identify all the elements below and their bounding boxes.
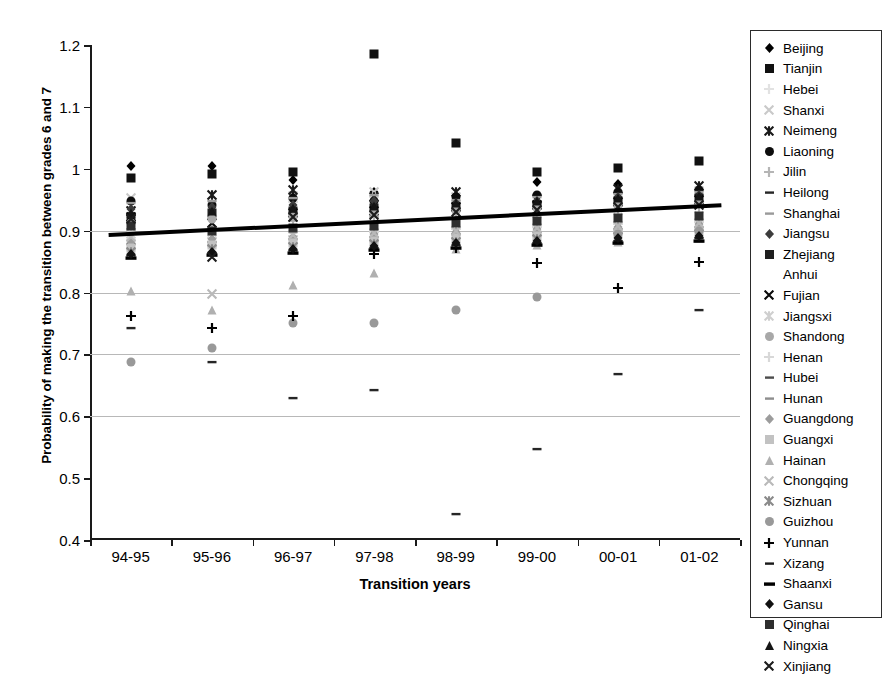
- data-point: [288, 212, 298, 222]
- data-point: [126, 326, 135, 331]
- legend-item[interactable]: Hubei: [759, 368, 877, 389]
- data-point: [532, 205, 542, 215]
- legend-item[interactable]: Anhui: [759, 265, 877, 286]
- x-tick-label: 01-02: [680, 548, 718, 565]
- legend-item[interactable]: Jilin: [759, 162, 877, 183]
- legend-item[interactable]: Shaanxi: [759, 573, 877, 594]
- legend-item[interactable]: Jiangsu: [759, 223, 877, 244]
- legend-item[interactable]: Tianjin: [759, 59, 877, 80]
- legend-item[interactable]: Xizang: [759, 553, 877, 574]
- data-point: [695, 157, 704, 166]
- legend-item[interactable]: Shanxi: [759, 100, 877, 121]
- y-tick: [84, 293, 90, 295]
- legend-label: Shanxi: [779, 103, 824, 118]
- data-point: [614, 163, 623, 172]
- legend-label: Xizang: [779, 556, 824, 571]
- data-point: [451, 512, 460, 517]
- data-point: [289, 175, 298, 185]
- legend-label: Hunan: [779, 391, 823, 406]
- legend-marker-icon: [759, 476, 779, 486]
- y-tick-label: 1: [20, 160, 80, 177]
- data-point: [695, 307, 704, 312]
- legend-marker-icon: [759, 641, 779, 650]
- legend-item[interactable]: Yunnan: [759, 532, 877, 553]
- data-point: [451, 305, 460, 314]
- data-point: [370, 241, 379, 251]
- legend-marker-icon: [759, 211, 779, 216]
- legend-label: Shaanxi: [779, 576, 832, 591]
- legend-label: Yunnan: [779, 535, 829, 550]
- legend-item[interactable]: Liaoning: [759, 141, 877, 162]
- legend-item[interactable]: Beijing: [759, 38, 877, 59]
- legend-item[interactable]: Hainan: [759, 450, 877, 471]
- legend-item[interactable]: Zhejiang: [759, 244, 877, 265]
- y-tick: [84, 231, 90, 233]
- legend-marker-icon: [759, 147, 779, 156]
- data-point: [614, 372, 623, 377]
- legend-label: Heilong: [779, 185, 829, 200]
- x-tick: [659, 540, 661, 546]
- x-tick: [415, 540, 417, 546]
- legend-item[interactable]: Henan: [759, 347, 877, 368]
- data-point: [289, 224, 298, 233]
- legend-item[interactable]: Shandong: [759, 326, 877, 347]
- legend-marker-icon: [759, 375, 779, 380]
- legend-label: Qinghai: [779, 617, 830, 632]
- legend-marker-icon: [759, 290, 779, 300]
- legend-label: Hebei: [779, 82, 818, 97]
- legend-item[interactable]: Xinjiang: [759, 656, 877, 676]
- x-tick: [90, 540, 92, 546]
- legend-marker-icon: [759, 599, 779, 609]
- y-tick: [84, 478, 90, 480]
- data-point: [126, 161, 135, 171]
- legend-label: Sizhuan: [779, 494, 832, 509]
- legend-item[interactable]: Shanghai: [759, 203, 877, 224]
- legend-marker-icon: [759, 229, 779, 239]
- legend-item[interactable]: Neimeng: [759, 120, 877, 141]
- data-point: [207, 305, 216, 314]
- data-point: [532, 236, 541, 246]
- legend-item[interactable]: Fujian: [759, 285, 877, 306]
- legend-marker-icon: [759, 43, 779, 53]
- y-tick: [84, 169, 90, 171]
- legend-item[interactable]: Guangxi: [759, 429, 877, 450]
- data-point: [126, 214, 136, 224]
- legend-item[interactable]: Gansu: [759, 594, 877, 615]
- data-point: [532, 292, 541, 301]
- legend-item[interactable]: Sizhuan: [759, 491, 877, 512]
- data-point: [532, 177, 541, 187]
- legend-label: Guizhou: [779, 514, 833, 529]
- legend: BeijingTianjinHebeiShanxiNeimengLiaoning…: [750, 30, 882, 618]
- x-tick: [578, 540, 580, 546]
- legend-item[interactable]: Hebei: [759, 79, 877, 100]
- data-point: [207, 169, 216, 178]
- data-point: [614, 214, 623, 223]
- legend-item[interactable]: Qinghai: [759, 615, 877, 636]
- y-tick-label: 1.1: [20, 98, 80, 115]
- legend-marker-icon: [759, 396, 779, 401]
- y-tick-label: 1.2: [20, 37, 80, 54]
- data-point: [370, 268, 379, 277]
- legend-item[interactable]: Hunan: [759, 388, 877, 409]
- legend-item[interactable]: Heilong: [759, 182, 877, 203]
- data-point: [289, 244, 298, 254]
- legend-label: Fujian: [779, 288, 820, 303]
- y-tick-label: 0.5: [20, 470, 80, 487]
- data-point: [369, 210, 379, 220]
- legend-item[interactable]: Guizhou: [759, 512, 877, 533]
- legend-marker-icon: [759, 561, 779, 566]
- legend-item[interactable]: Ningxia: [759, 635, 877, 656]
- legend-item[interactable]: Chongqing: [759, 470, 877, 491]
- legend-label: Neimeng: [779, 123, 837, 138]
- legend-item[interactable]: Guangdong: [759, 409, 877, 430]
- legend-label: Jiangsu: [779, 226, 830, 241]
- y-axis-title: Probability of making the transition bet…: [39, 16, 54, 536]
- y-tick-label: 0.8: [20, 284, 80, 301]
- x-tick: [171, 540, 173, 546]
- data-point: [370, 387, 379, 392]
- y-tick-label: 0.4: [20, 532, 80, 549]
- x-tick-label: 94-95: [111, 548, 149, 565]
- legend-label: Gansu: [779, 597, 823, 612]
- legend-label: Jilin: [779, 164, 806, 179]
- legend-item[interactable]: Jiangsxi: [759, 306, 877, 327]
